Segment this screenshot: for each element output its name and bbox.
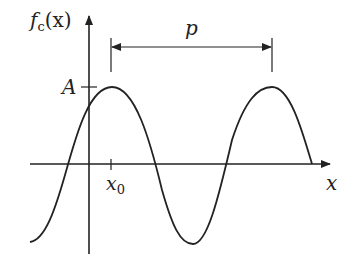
y-axis-label: fc(x) (28, 8, 72, 34)
period-label: p (185, 16, 198, 40)
amplitude-label: A (60, 75, 76, 99)
x0-label: x0 (106, 172, 125, 197)
function-curve (30, 87, 312, 244)
x-axis-label: x (326, 171, 337, 195)
function-diagram: fc(x) A x0 x p (0, 0, 353, 261)
